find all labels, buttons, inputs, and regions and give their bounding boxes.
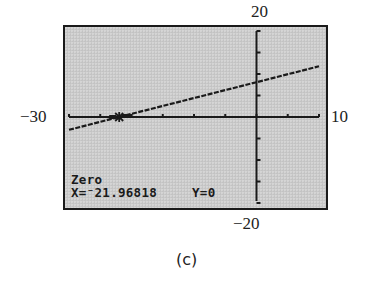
figure-caption: (c)	[176, 252, 197, 268]
ymin-label: −20	[233, 215, 260, 232]
xmax-label: 10	[331, 108, 348, 125]
xmin-label: −30	[20, 108, 47, 125]
cursor-blob	[109, 115, 116, 119]
function-line	[69, 66, 319, 130]
y-readout: Y=0	[192, 186, 215, 199]
cursor-blob	[122, 114, 132, 118]
ymax-label: 20	[251, 3, 268, 20]
graph-plot	[65, 27, 326, 208]
calculator-screen: Zero X=⁻21.96818 Y=0	[63, 25, 328, 210]
x-readout: X=⁻21.96818	[71, 186, 157, 199]
